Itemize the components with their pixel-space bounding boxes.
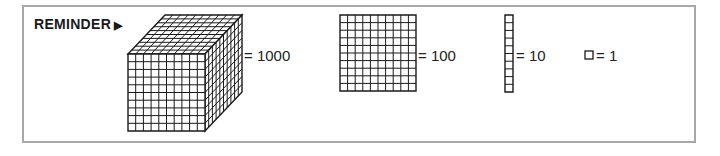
thousand-label: = 1000: [244, 47, 290, 64]
ten-label: = 10: [516, 47, 546, 64]
one-label: = 1: [596, 47, 617, 64]
unit-cube-icon: [585, 51, 593, 59]
hundred-label: = 100: [418, 47, 456, 64]
thousand-cube-icon: [128, 15, 242, 131]
ten-rod-icon: [505, 15, 513, 92]
base-ten-blocks-drawing: [0, 0, 720, 156]
hundred-flat-icon: [340, 15, 416, 91]
